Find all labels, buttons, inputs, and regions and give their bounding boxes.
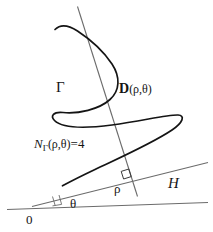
right-angle-marker bbox=[121, 169, 131, 179]
region-label: D(ρ,θ) bbox=[119, 82, 152, 96]
curve-label: Γ bbox=[56, 80, 65, 95]
count-symbol: N bbox=[34, 136, 43, 151]
count-args: (ρ,θ) bbox=[48, 137, 71, 151]
theta-label: θ bbox=[70, 197, 76, 210]
geometry-diagram bbox=[0, 0, 213, 232]
region-label-symbol: D bbox=[119, 81, 129, 96]
origin-label: 0 bbox=[26, 213, 33, 226]
rho-label: ρ bbox=[114, 182, 121, 195]
curve-gamma bbox=[53, 26, 183, 186]
region-label-args: (ρ,θ) bbox=[129, 82, 152, 96]
count-value: =4 bbox=[71, 136, 85, 151]
line-h-label: H bbox=[168, 176, 179, 191]
baseline-axis bbox=[7, 203, 208, 210]
intersection-count-label: NΓ(ρ,θ)=4 bbox=[34, 137, 84, 153]
